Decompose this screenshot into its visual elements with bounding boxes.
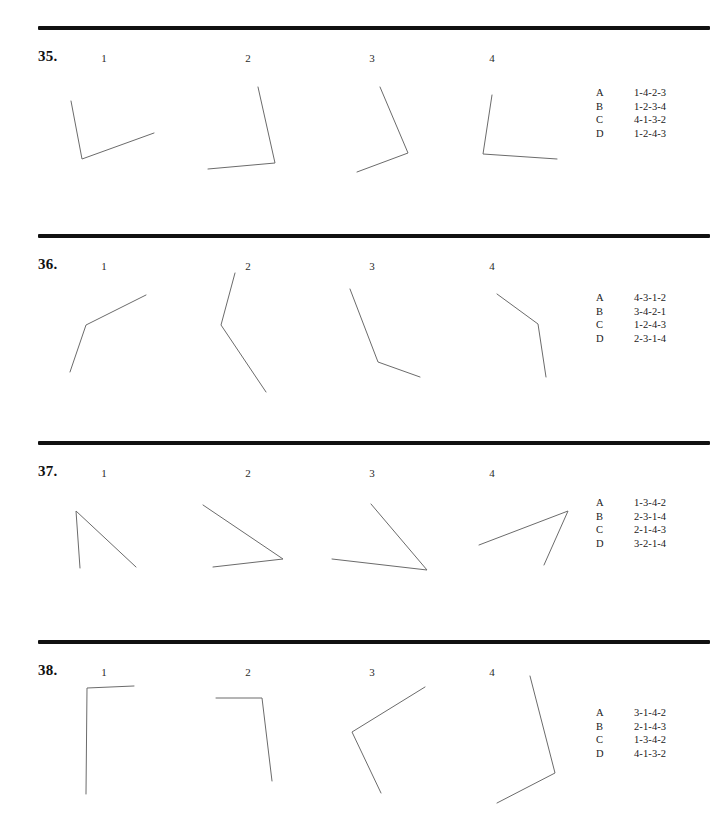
answer-option-B[interactable]: B2-1-4-3 — [596, 720, 666, 734]
answer-option-B[interactable]: B1-2-3-4 — [596, 100, 666, 114]
figure-36-2 — [221, 273, 266, 392]
answer-option-A[interactable]: A4-3-1-2 — [596, 291, 666, 305]
answer-sequence: 3-1-4-2 — [634, 706, 666, 720]
figure-label-4: 4 — [484, 467, 500, 479]
answer-letter: B — [596, 720, 634, 734]
figure-36-4 — [497, 294, 546, 377]
answer-options: A4-3-1-2B3-4-2-1C1-2-4-3D2-3-1-4 — [596, 291, 666, 345]
figure-38-3 — [352, 687, 425, 793]
figure-label-4: 4 — [484, 260, 500, 272]
answer-options: A1-3-4-2B2-3-1-4C2-1-4-3D3-2-1-4 — [596, 496, 666, 550]
figure-37-2 — [203, 505, 283, 567]
question-number: 38. — [38, 662, 57, 679]
answer-option-A[interactable]: A3-1-4-2 — [596, 706, 666, 720]
answer-sequence: 2-1-4-3 — [634, 720, 666, 734]
figure-label-2: 2 — [240, 52, 256, 64]
figure-label-1: 1 — [96, 260, 112, 272]
answer-option-C[interactable]: C2-1-4-3 — [596, 523, 666, 537]
answer-option-A[interactable]: A1-3-4-2 — [596, 496, 666, 510]
answer-letter: C — [596, 523, 634, 537]
figure-36-1 — [70, 295, 146, 372]
figure-label-4: 4 — [484, 666, 500, 678]
answer-letter: A — [596, 496, 634, 510]
answer-letter: D — [596, 537, 634, 551]
figure-35-1 — [71, 101, 154, 159]
section-divider — [38, 234, 710, 238]
answer-letter: A — [596, 86, 634, 100]
figure-37-1 — [76, 511, 136, 568]
figure-label-2: 2 — [240, 666, 256, 678]
figure-label-3: 3 — [364, 52, 380, 64]
answer-option-C[interactable]: C1-3-4-2 — [596, 733, 666, 747]
answer-sequence: 1-2-3-4 — [634, 100, 666, 114]
answer-letter: C — [596, 733, 634, 747]
answer-sequence: 1-4-2-3 — [634, 86, 666, 100]
answer-sequence: 1-3-4-2 — [634, 496, 666, 510]
answer-option-A[interactable]: A1-4-2-3 — [596, 86, 666, 100]
answer-options: A3-1-4-2B2-1-4-3C1-3-4-2D4-1-3-2 — [596, 706, 666, 760]
answer-option-D[interactable]: D3-2-1-4 — [596, 537, 666, 551]
section-divider — [38, 640, 710, 644]
answer-sequence: 3-2-1-4 — [634, 537, 666, 551]
figure-35-4 — [483, 95, 557, 159]
figure-label-2: 2 — [240, 260, 256, 272]
answer-letter: C — [596, 113, 634, 127]
figure-37-4 — [479, 511, 568, 565]
answer-letter: D — [596, 332, 634, 346]
answer-sequence: 1-3-4-2 — [634, 733, 666, 747]
figure-label-1: 1 — [96, 52, 112, 64]
figure-label-3: 3 — [364, 467, 380, 479]
figure-37-3 — [332, 504, 427, 570]
section-divider — [38, 26, 710, 30]
figure-label-1: 1 — [96, 666, 112, 678]
answer-option-D[interactable]: D1-2-4-3 — [596, 127, 666, 141]
figure-label-3: 3 — [364, 260, 380, 272]
answer-letter: C — [596, 318, 634, 332]
answer-sequence: 2-3-1-4 — [634, 510, 666, 524]
answer-sequence: 3-4-2-1 — [634, 305, 666, 319]
answer-sequence: 4-1-3-2 — [634, 747, 666, 761]
figure-38-1 — [86, 686, 134, 794]
figure-38-2 — [216, 698, 272, 781]
figure-label-4: 4 — [484, 52, 500, 64]
answer-letter: D — [596, 747, 634, 761]
answer-option-D[interactable]: D2-3-1-4 — [596, 332, 666, 346]
answer-letter: A — [596, 706, 634, 720]
answer-option-D[interactable]: D4-1-3-2 — [596, 747, 666, 761]
question-number: 36. — [38, 256, 57, 273]
figure-label-2: 2 — [240, 467, 256, 479]
answer-letter: B — [596, 510, 634, 524]
figure-35-3 — [357, 87, 408, 172]
answer-options: A1-4-2-3B1-2-3-4C4-1-3-2D1-2-4-3 — [596, 86, 666, 140]
figure-35-2 — [208, 87, 275, 169]
question-number: 37. — [38, 463, 57, 480]
answer-sequence: 1-2-4-3 — [634, 318, 666, 332]
answer-option-B[interactable]: B3-4-2-1 — [596, 305, 666, 319]
answer-option-C[interactable]: C1-2-4-3 — [596, 318, 666, 332]
section-divider — [38, 441, 710, 445]
figure-38-4 — [497, 676, 555, 803]
answer-sequence: 1-2-4-3 — [634, 127, 666, 141]
answer-sequence: 2-1-4-3 — [634, 523, 666, 537]
answer-letter: B — [596, 305, 634, 319]
figure-36-3 — [350, 289, 420, 377]
answer-option-C[interactable]: C4-1-3-2 — [596, 113, 666, 127]
figure-label-3: 3 — [364, 666, 380, 678]
answer-sequence: 4-3-1-2 — [634, 291, 666, 305]
answer-option-B[interactable]: B2-3-1-4 — [596, 510, 666, 524]
question-number: 35. — [38, 48, 57, 65]
answer-sequence: 4-1-3-2 — [634, 113, 666, 127]
figure-label-1: 1 — [96, 467, 112, 479]
answer-letter: B — [596, 100, 634, 114]
answer-letter: D — [596, 127, 634, 141]
answer-letter: A — [596, 291, 634, 305]
answer-sequence: 2-3-1-4 — [634, 332, 666, 346]
